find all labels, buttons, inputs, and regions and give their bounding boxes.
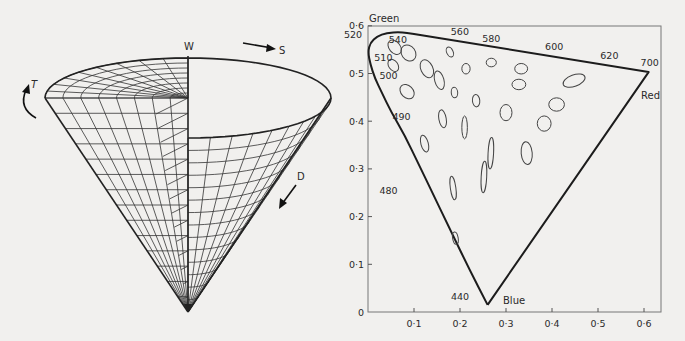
chromaticity-diagram: 0·10·20·30·40·50·6 00·10·20·30·40·50·6 5… [344,13,661,329]
wavelength-label: 600 [545,41,563,52]
darkness-label: D [297,171,305,182]
discrimination-ellipse [549,98,565,111]
saturation-label: S [279,45,285,56]
discrimination-ellipse [397,82,417,102]
wavelength-label: 700 [641,57,659,68]
x-tick-label: 0·5 [590,318,605,329]
wavelength-label: 540 [389,34,407,45]
discrimination-ellipse [462,116,468,139]
wavelength-label: 620 [600,50,618,61]
x-tick-label: 0·6 [636,318,651,329]
tone-label: T [31,79,38,90]
wavelength-label: 580 [482,33,500,44]
spectral-locus [369,32,649,305]
discrimination-ellipse [515,63,528,73]
discrimination-ellipse [480,161,487,193]
wavelength-label: 490 [392,111,410,122]
wavelength-label: 480 [379,185,397,196]
discrimination-ellipse [437,109,447,128]
wavelength-label: 520 [344,29,362,40]
x-tick-label: 0·4 [544,318,559,329]
wavelength-label: 500 [380,70,398,81]
discrimination-ellipse [537,116,551,131]
y-tick-label: 0 [358,307,364,318]
discrimination-ellipse [472,94,480,107]
figure: W S T D 0·10·20·30·40·50·6 00·10·20·30·4… [0,0,685,341]
y-tick-label: 0·2 [349,211,364,222]
discrimination-ellipse [398,42,419,64]
wavelength-label: 510 [374,52,392,63]
discrimination-ellipse [462,63,470,73]
y-tick-label: 0·5 [349,68,364,79]
discrimination-ellipse [419,134,431,152]
wavelength-label: 560 [451,26,469,37]
green-label: Green [369,13,399,24]
discrimination-ellipse [487,137,494,169]
y-axis: 00·10·20·30·40·50·6 [349,20,372,317]
x-tick-label: 0·2 [452,318,467,329]
wavelength-labels: 520510500490480540560580600620700440 [344,26,659,302]
discrimination-ellipse [451,87,458,98]
wavelength-label: 440 [451,291,469,302]
x-axis: 0·10·20·30·40·50·6 [406,308,651,329]
x-tick-label: 0·3 [498,318,513,329]
discrimination-ellipse [486,58,496,67]
color-solid-cone: W S T D [22,41,331,312]
cone-outline [45,56,331,312]
discrimination-ellipse [520,141,533,165]
macadam-ellipses [385,38,587,245]
darkness-arrow-icon [279,185,296,209]
white-label: W [184,41,194,52]
discrimination-ellipse [449,176,458,200]
y-tick-label: 0·4 [349,116,364,127]
saturation-arrow-icon [243,43,276,52]
y-tick-label: 0·1 [349,259,364,270]
discrimination-ellipse [432,70,446,91]
discrimination-ellipse [512,79,526,89]
discrimination-ellipse [500,105,512,121]
red-label: Red [641,90,660,101]
blue-label: Blue [503,295,525,306]
discrimination-ellipse [417,58,436,80]
discrimination-ellipse [561,71,587,90]
x-tick-label: 0·1 [406,318,421,329]
y-tick-label: 0·3 [349,163,364,174]
discrimination-ellipse [445,46,455,58]
